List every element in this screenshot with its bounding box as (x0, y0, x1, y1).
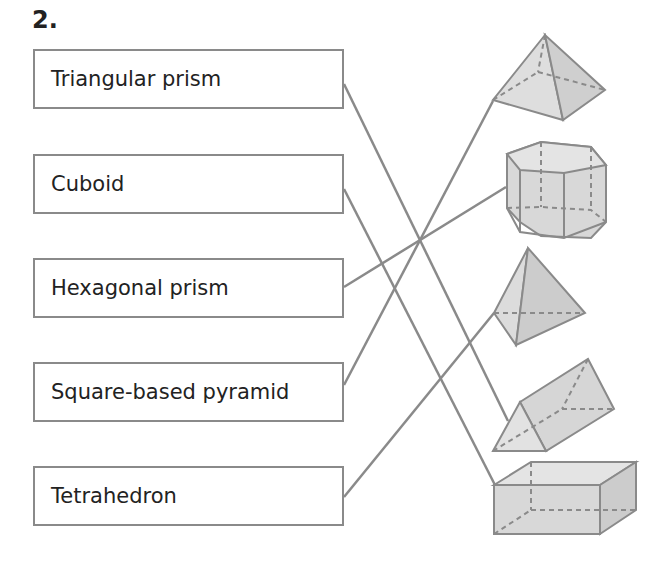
hexagonal-prism-icon (507, 142, 606, 238)
cuboid-icon (494, 462, 636, 534)
triangular-prism-icon (493, 359, 614, 451)
diagram-canvas (0, 0, 657, 563)
line-cuboid[interactable] (344, 189, 495, 485)
square-based-pyramid-icon (493, 35, 605, 120)
connector-lines (344, 84, 508, 497)
line-triangular-prism[interactable] (344, 84, 508, 421)
tetrahedron-icon (494, 248, 585, 345)
